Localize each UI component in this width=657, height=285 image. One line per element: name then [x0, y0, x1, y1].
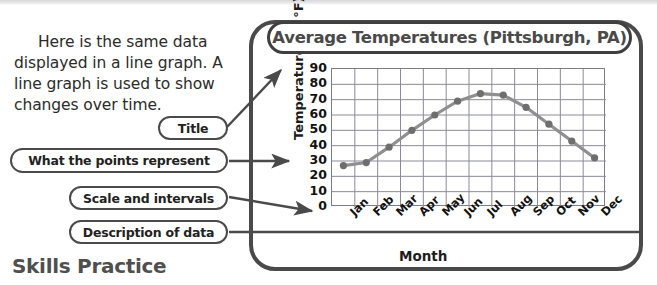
intro-paragraph: Here is the same data displayed in a lin…: [14, 32, 229, 116]
section-heading: Skills Practice: [12, 254, 166, 278]
y-tick: 90: [310, 62, 327, 74]
data-point: [545, 121, 552, 128]
callout-points-label: What the points represent: [28, 153, 210, 168]
line-chart: Temperature (in °F) 90 80 70 60 50 40 30…: [249, 20, 643, 271]
plot-area: [331, 68, 605, 206]
data-point: [477, 90, 484, 97]
data-point: [591, 154, 598, 161]
y-tick: 70: [310, 93, 327, 105]
page-root: Here is the same data displayed in a lin…: [0, 0, 657, 285]
y-tick: 30: [310, 154, 327, 166]
x-axis-ticks: Jan Feb Mar Apr May Jun Jul Aug Sep Oct …: [331, 209, 605, 249]
y-tick: 20: [310, 169, 327, 181]
x-axis-title: Month: [399, 248, 447, 264]
y-tick: 10: [310, 185, 327, 197]
callout-scale-label: Scale and intervals: [83, 191, 214, 206]
data-point: [522, 104, 529, 111]
data-point: [454, 98, 461, 105]
callout-description-label: Description of data: [83, 225, 215, 240]
grid-lines: [332, 69, 606, 207]
y-tick: 50: [310, 123, 327, 135]
data-point: [385, 144, 392, 151]
y-tick: 0: [318, 200, 327, 212]
y-tick: 80: [310, 77, 327, 89]
data-point: [408, 127, 415, 134]
data-point: [363, 159, 370, 166]
data-point: [340, 162, 347, 169]
y-tick: 40: [310, 139, 327, 151]
chart-title-text: Average Temperatures (Pittsburgh, PA): [272, 28, 626, 47]
y-tick: 60: [310, 108, 327, 120]
chart-title-callout: Average Temperatures (Pittsburgh, PA): [267, 21, 632, 54]
callout-title-label: Title: [178, 121, 209, 136]
callout-scale: Scale and intervals: [69, 186, 228, 210]
callout-title: Title: [158, 116, 228, 140]
data-point: [500, 91, 507, 98]
data-point: [568, 137, 575, 144]
page-top-band: [0, 0, 657, 5]
data-point: [431, 111, 438, 118]
intro-paragraph-text: Here is the same data displayed in a lin…: [14, 33, 223, 114]
callout-description: Description of data: [69, 220, 228, 244]
callout-points: What the points represent: [10, 148, 228, 173]
y-axis-ticks: 90 80 70 60 50 40 30 20 10 0: [303, 68, 327, 206]
